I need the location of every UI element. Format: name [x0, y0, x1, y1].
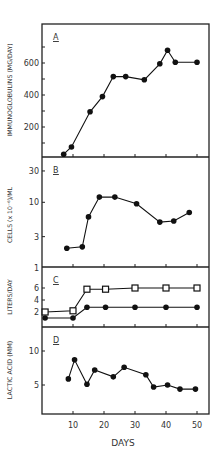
y-axis-title: CELLS (x 10⁻⁶)/ML	[6, 186, 13, 243]
data-point-circle	[84, 304, 90, 310]
x-tick-label: 30	[130, 421, 140, 430]
y-axis-labels: 200400600IMMUNOGLOBULINS (MG/DAY)131030C…	[6, 43, 39, 399]
data-point-circle	[84, 382, 90, 388]
data-point-circle	[111, 374, 117, 380]
data-point-circle	[70, 315, 76, 321]
data-point-circle	[42, 315, 48, 321]
x-tick-label: 10	[68, 421, 78, 430]
y-tick-label: 1	[34, 264, 39, 273]
data-point-circle	[64, 245, 70, 251]
data-series	[42, 47, 200, 391]
data-point-circle	[66, 376, 72, 382]
data-point-circle	[111, 74, 117, 80]
data-point-circle	[72, 357, 78, 363]
data-point-circle	[69, 144, 75, 150]
data-point-circle	[92, 367, 98, 373]
data-point-circle	[123, 74, 129, 80]
data-point-circle	[142, 77, 148, 83]
y-tick-label: 2	[34, 308, 39, 317]
y-tick-label: 4	[34, 296, 39, 305]
series-line	[64, 50, 197, 154]
data-point-circle	[121, 365, 127, 371]
y-tick-label: 6	[34, 284, 39, 293]
x-axis-title: DAYS	[111, 438, 135, 448]
four-panel-chart: 200400600IMMUNOGLOBULINS (MG/DAY)131030C…	[0, 0, 219, 470]
series-line	[45, 307, 197, 318]
data-point-circle	[194, 304, 200, 310]
data-point-square	[103, 286, 109, 292]
data-point-circle	[165, 382, 171, 388]
y-tick-label: 200	[24, 123, 39, 132]
series-line	[45, 288, 197, 312]
data-point-circle	[80, 244, 86, 250]
panel-frames	[42, 24, 209, 414]
y-tick-label: 30	[29, 167, 39, 176]
y-tick-label: 10	[29, 347, 39, 356]
panel-letter: D	[53, 336, 59, 345]
data-point-circle	[132, 304, 138, 310]
axis-ticks	[42, 47, 197, 414]
panel-letter: B	[53, 166, 59, 175]
data-point-circle	[157, 219, 163, 225]
data-point-circle	[103, 304, 109, 310]
data-point-circle	[194, 59, 200, 65]
data-point-circle	[193, 386, 199, 392]
y-axis-title: LACTIC ACID (MM)	[6, 341, 14, 399]
y-tick-label: 3	[34, 233, 39, 242]
data-point-square	[163, 285, 169, 291]
data-point-square	[132, 285, 138, 291]
outer-frame	[42, 24, 209, 414]
data-point-circle	[143, 372, 149, 378]
data-point-circle	[134, 201, 140, 207]
x-tick-label: 20	[99, 421, 109, 430]
data-point-circle	[163, 304, 169, 310]
data-point-circle	[171, 218, 177, 224]
data-point-circle	[186, 210, 192, 216]
x-tick-label: 50	[192, 421, 202, 430]
data-point-circle	[61, 151, 67, 157]
x-tick-label: 40	[161, 421, 171, 430]
data-point-circle	[86, 214, 92, 220]
data-point-square	[194, 285, 200, 291]
data-point-circle	[177, 386, 183, 392]
y-axis-title: IMMUNOGLOBULINS (MG/DAY)	[6, 43, 13, 136]
y-tick-label: 5	[34, 381, 39, 390]
data-point-circle	[157, 61, 163, 67]
data-point-square	[42, 309, 48, 315]
y-axis-title: LITERS/DAY	[6, 279, 13, 315]
data-point-circle	[112, 194, 118, 200]
data-point-circle	[165, 47, 171, 53]
data-point-square	[70, 308, 76, 314]
data-point-circle	[97, 194, 103, 200]
data-point-circle	[100, 94, 106, 100]
data-point-square	[84, 286, 90, 292]
data-point-circle	[151, 384, 157, 390]
x-axis: DAYS 1020304050	[68, 421, 202, 448]
panel-letters: ABCD	[53, 33, 59, 345]
data-point-circle	[173, 59, 179, 65]
panel-letter: C	[53, 276, 59, 285]
series-line	[67, 197, 189, 248]
data-point-circle	[87, 109, 93, 115]
y-tick-label: 600	[24, 59, 39, 68]
panel-letter: A	[53, 33, 59, 42]
y-tick-label: 10	[29, 198, 39, 207]
y-tick-label: 400	[24, 91, 39, 100]
